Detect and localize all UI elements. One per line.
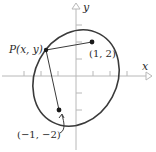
y-axis-arrow-icon — [72, 3, 80, 9]
focus-1-point — [90, 40, 95, 45]
y-ticks — [76, 25, 82, 110]
segment-p-to-focus-1 — [46, 42, 92, 50]
axes: y x — [2, 1, 152, 150]
point-p-label: P(x, y) — [8, 43, 43, 55]
point-p — [44, 48, 48, 52]
segment-p-to-focus-2 — [46, 50, 59, 110]
point-p-label-text: P(x, y) — [8, 43, 43, 55]
ellipse-diagram: y x P(x, y) (1, 2) (−1, −2) — [0, 0, 156, 152]
leader-arrowhead-icon — [59, 114, 64, 118]
y-axis-label: y — [82, 1, 90, 14]
focus-1-label: (1, 2) — [89, 48, 116, 59]
x-axis-label: x — [142, 60, 149, 73]
x-axis-arrow-icon — [146, 72, 152, 80]
focus-2-label: (−1, −2) — [17, 129, 61, 140]
focus-2-point — [57, 108, 62, 113]
